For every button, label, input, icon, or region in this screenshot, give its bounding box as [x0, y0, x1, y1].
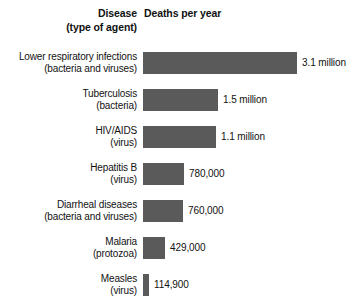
bar-and-value: 760,000 [143, 200, 223, 222]
chart-row: Malaria(protozoa)429,000 [0, 229, 360, 266]
bar [143, 89, 218, 111]
bar-value-label: 114,900 [154, 279, 189, 291]
bar-and-value: 114,900 [143, 274, 189, 296]
row-label: Measles(virus) [0, 272, 137, 297]
column-header-disease-line1: Disease [98, 7, 137, 19]
row-label: Malaria(protozoa) [0, 235, 137, 260]
bar [143, 274, 149, 296]
row-disease-name: Diarrheal diseases [57, 198, 137, 209]
row-agent-type: (bacteria and viruses) [0, 63, 137, 76]
column-header-disease: Disease (type of agent) [0, 7, 137, 34]
bar-value-label: 1.1 million [221, 131, 265, 143]
row-label: HIV/AIDS(virus) [0, 124, 137, 149]
bar-value-label: 760,000 [188, 205, 223, 217]
chart-row: Diarrheal diseases(bacteria and viruses)… [0, 192, 360, 229]
row-agent-type: (bacteria and viruses) [0, 211, 137, 224]
row-agent-type: (virus) [0, 285, 137, 298]
row-label: Diarrheal diseases(bacteria and viruses) [0, 198, 137, 223]
bar-value-label: 1.5 million [223, 94, 267, 106]
bar-and-value: 429,000 [143, 237, 205, 259]
chart-header: Disease (type of agent) Deaths per year [0, 7, 360, 41]
row-label: Lower respiratory infections(bacteria an… [0, 50, 137, 75]
deaths-per-year-bar-chart: Disease (type of agent) Deaths per year … [0, 0, 360, 307]
bar [143, 237, 165, 259]
row-agent-type: (virus) [0, 137, 137, 150]
row-disease-name: HIV/AIDS [95, 124, 137, 135]
chart-rows: Lower respiratory infections(bacteria an… [0, 44, 360, 303]
bar-and-value: 3.1 million [143, 52, 346, 74]
bar-value-label: 3.1 million [302, 57, 346, 69]
bar [143, 126, 216, 148]
bar [143, 163, 184, 185]
chart-row: HIV/AIDS(virus)1.1 million [0, 118, 360, 155]
bar-and-value: 1.5 million [143, 89, 267, 111]
column-header-deaths: Deaths per year [144, 7, 221, 21]
row-agent-type: (virus) [0, 174, 137, 187]
row-agent-type: (bacteria) [0, 100, 137, 113]
row-disease-name: Tuberculosis [82, 87, 137, 98]
row-disease-name: Measles [101, 272, 137, 283]
bar [143, 52, 297, 74]
row-disease-name: Malaria [105, 235, 137, 246]
bar-value-label: 429,000 [170, 242, 205, 254]
row-disease-name: Hepatitis B [90, 161, 137, 172]
bar-value-label: 780,000 [189, 168, 224, 180]
chart-row: Measles(virus)114,900 [0, 266, 360, 303]
chart-row: Hepatitis B(virus)780,000 [0, 155, 360, 192]
column-header-disease-line2: (type of agent) [0, 21, 137, 35]
bar-and-value: 780,000 [143, 163, 224, 185]
chart-row: Tuberculosis(bacteria)1.5 million [0, 81, 360, 118]
bar-and-value: 1.1 million [143, 126, 265, 148]
row-label: Tuberculosis(bacteria) [0, 87, 137, 112]
row-label: Hepatitis B(virus) [0, 161, 137, 186]
row-disease-name: Lower respiratory infections [19, 50, 137, 61]
row-agent-type: (protozoa) [0, 248, 137, 261]
chart-row: Lower respiratory infections(bacteria an… [0, 44, 360, 81]
bar [143, 200, 183, 222]
